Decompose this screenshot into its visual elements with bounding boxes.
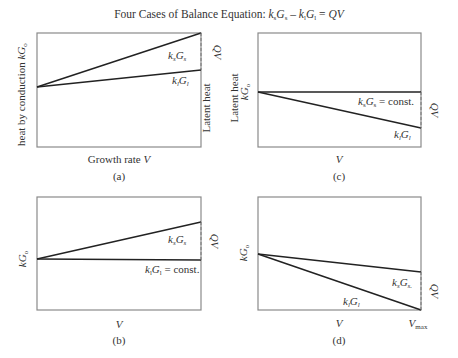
panel-d-ylabel: kGo: [237, 244, 251, 261]
panel-a: ksGs klGl heat by conduction kGo QV Late…: [15, 33, 224, 183]
panel-b: ksGs klGl = const. kGo QV V (b): [16, 197, 221, 347]
panel-c-klgl-label: klGl: [394, 128, 411, 142]
panel-b-ylabel: kGo: [16, 250, 30, 267]
panel-b-caption: (b): [113, 334, 126, 347]
panel-a-qv-label: QV: [212, 45, 224, 61]
panel-c-latent-heat-label: Latent heat: [228, 73, 240, 122]
panel-b-xlabel: V: [116, 318, 124, 330]
panel-c-ksgs-label: ksGs = const.: [358, 95, 414, 109]
panel-d: ksGs. klGl kGo QV V Vmax (d): [237, 197, 441, 347]
panel-b-qv-label: QV: [209, 234, 221, 250]
panel-b-klgl-line: [37, 259, 201, 260]
panel-d-klgl-label: klGl: [343, 295, 360, 309]
panel-c: ksGs = const. klGl kGo Latent heat QV V …: [228, 33, 441, 183]
panel-d-caption: (d): [333, 334, 346, 347]
panel-d-frame: [258, 197, 421, 310]
diagram-title: Four Cases of Balance Equation: ksGs – k…: [114, 8, 346, 22]
panel-c-ylabel: kGo: [238, 83, 252, 100]
panel-d-vmax-label: Vmax: [409, 317, 428, 331]
panel-a-latent-heat-label: Latent heat: [200, 83, 212, 132]
panel-d-ksgs-label: ksGs.: [392, 276, 412, 290]
balance-equation-diagram: Four Cases of Balance Equation: ksGs – k…: [0, 0, 458, 358]
panel-a-xlabel: Growth rate V: [88, 153, 152, 165]
panel-c-caption: (c): [333, 170, 346, 183]
panel-c-qv-label: QV: [429, 103, 441, 119]
panel-a-ylabel: heat by conduction kGo: [15, 43, 29, 146]
panel-d-xlabel: V: [336, 317, 344, 329]
panel-d-qv-label: QV: [429, 284, 441, 300]
panel-c-xlabel: V: [336, 153, 344, 165]
panel-a-caption: (a): [113, 170, 126, 183]
panel-b-klgl-label: klGl = const.: [145, 263, 200, 277]
panel-a-klgl-label: klGl: [172, 74, 189, 88]
panel-b-ksgs-label: ksGs: [168, 233, 187, 247]
panel-a-ksgs-label: ksGs: [168, 49, 187, 63]
